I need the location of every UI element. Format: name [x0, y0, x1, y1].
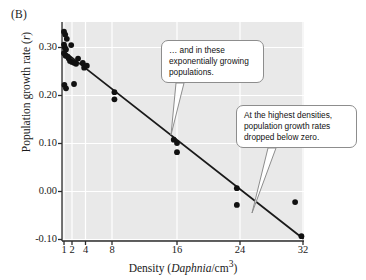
x-axis-label-post: ) — [233, 262, 237, 274]
x-axis-label-italic: Daphnia — [171, 262, 211, 274]
y-axis-label: Population growth rate (r) — [20, 0, 32, 202]
x-tick-label: 32 — [292, 245, 314, 256]
x-tick-label: 8 — [101, 245, 123, 256]
x-tick-label: 24 — [229, 245, 251, 256]
x-axis-label: Density (Daphnia/cm3) — [62, 258, 304, 274]
y-tick-label: 0.30 — [23, 42, 57, 53]
x-axis-label-mid: /cm — [211, 262, 228, 274]
figure-panel-b: (B) Population growth rate (r) Density (… — [0, 0, 366, 280]
y-tick-label: 0.00 — [23, 186, 57, 197]
callout-exponential-growth: … and in these exponentially growing pop… — [161, 40, 264, 83]
callout-growth-line3: populations. — [169, 67, 257, 78]
callout-growth-line1: … and in these — [169, 45, 257, 56]
y-axis-label-post: ) — [20, 32, 32, 36]
callout-density-line3: dropped below zero. — [244, 132, 350, 143]
callout-growth-line2: exponentially growing — [169, 56, 257, 67]
callout-highest-densities: At the highest densities, population gro… — [236, 105, 357, 148]
y-tick-label: 0.10 — [23, 138, 57, 149]
y-tick-label: 0.20 — [23, 90, 57, 101]
y-tick-label: -0.10 — [23, 234, 57, 245]
x-axis-label-pre: Density ( — [129, 262, 171, 274]
callout-density-line2: population growth rates — [244, 121, 350, 132]
y-axis-label-italic: r — [20, 36, 32, 40]
x-tick-label: 4 — [75, 245, 97, 256]
callout-density-line1: At the highest densities, — [244, 110, 350, 121]
x-tick-label: 16 — [166, 245, 188, 256]
